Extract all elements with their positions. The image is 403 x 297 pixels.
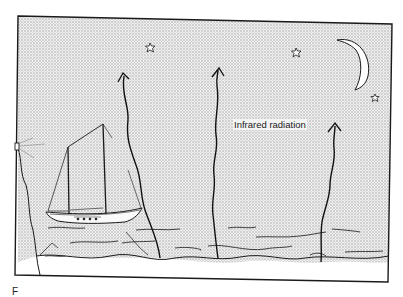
figure-caption: F — [12, 286, 18, 297]
night-sky — [18, 16, 392, 263]
infrared-radiation-label: Infrared radiation — [233, 119, 307, 130]
